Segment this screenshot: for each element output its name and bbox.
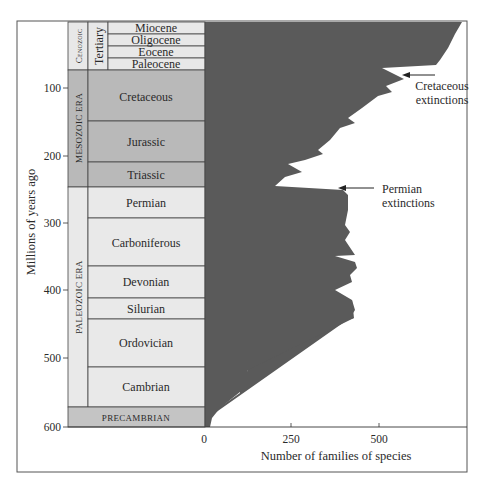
period-cretaceous-label: Cretaceous bbox=[119, 90, 173, 104]
period-paleocene-label: Paleocene bbox=[132, 57, 181, 71]
svg-text:Cretaceous: Cretaceous bbox=[415, 79, 469, 93]
svg-text:extinctions: extinctions bbox=[382, 196, 435, 210]
y-tick-400: 400 bbox=[44, 284, 62, 296]
era-cenozoic-label: Cenozoic bbox=[74, 29, 84, 64]
period-triassic-label: Triassic bbox=[127, 168, 165, 182]
y-tick-300: 300 bbox=[44, 217, 62, 229]
period-carboniferous-label: Carboniferous bbox=[112, 236, 181, 250]
y-tick-100: 100 bbox=[44, 82, 62, 94]
extinction-chart: Cenozoic Tertiary Mesozoic era Paleozoic… bbox=[0, 0, 484, 488]
x-axis-label: Number of families of species bbox=[261, 449, 412, 463]
x-tick-250: 250 bbox=[282, 433, 300, 445]
svg-text:extinctions: extinctions bbox=[416, 93, 469, 107]
y-tick-600: 600 bbox=[44, 421, 62, 433]
period-jurassic-label: Jurassic bbox=[127, 135, 165, 149]
period-cambrian-label: Cambrian bbox=[122, 380, 169, 394]
era-precambrian-label: Precambrian bbox=[102, 413, 171, 423]
era-tertiary-label: Tertiary bbox=[92, 27, 106, 65]
period-devonian-label: Devonian bbox=[123, 275, 170, 289]
period-ordovician-label: Ordovician bbox=[119, 336, 173, 350]
x-tick-0: 0 bbox=[201, 433, 207, 445]
y-tick-200: 200 bbox=[44, 150, 62, 162]
y-tick-500: 500 bbox=[44, 352, 62, 364]
geologic-column: Cenozoic Tertiary Mesozoic era Paleozoic… bbox=[68, 21, 205, 427]
period-permian-label: Permian bbox=[126, 196, 166, 210]
period-silurian-label: Silurian bbox=[127, 302, 165, 316]
x-tick-500: 500 bbox=[370, 433, 388, 445]
svg-text:Permian: Permian bbox=[382, 182, 422, 196]
era-paleozoic-label: Paleozoic era bbox=[74, 260, 84, 334]
y-axis-label: Millions of years ago bbox=[24, 169, 38, 276]
era-mesozoic-label: Mesozoic era bbox=[74, 93, 84, 163]
